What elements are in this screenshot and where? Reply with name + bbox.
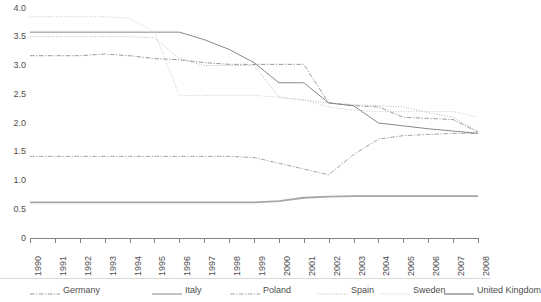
x-tick-label: 2003 — [358, 256, 367, 276]
legend-swatch-united-kingdom — [444, 285, 474, 295]
x-tick — [80, 238, 81, 243]
legend-label: Sweden — [413, 285, 446, 295]
legend-entry-italy[interactable]: Italy — [152, 281, 202, 299]
legend-entry-poland[interactable]: Poland — [230, 281, 291, 299]
x-tick-label: 2001 — [308, 256, 317, 276]
legend-label: United Kingdom — [477, 285, 541, 295]
x-tick — [453, 238, 454, 243]
legend-entry-united-kingdom[interactable]: United Kingdom — [444, 281, 541, 299]
x-tick — [30, 238, 31, 243]
legend-entry-sweden[interactable]: Sweden — [380, 281, 446, 299]
x-tick-label: 2007 — [457, 256, 466, 276]
x-tick — [478, 238, 479, 243]
x-tick-label: 1996 — [183, 256, 192, 276]
legend-label: Germany — [63, 285, 100, 295]
x-tick-label: 2004 — [382, 256, 391, 276]
chart-legend: GermanyItalyPolandSpainSwedenUnited King… — [0, 281, 491, 302]
legend-label: Poland — [263, 285, 291, 295]
x-tick — [229, 238, 230, 243]
legend-swatch-germany — [30, 285, 60, 295]
x-tick-label: 2000 — [283, 256, 292, 276]
x-tick — [403, 238, 404, 243]
x-tick — [329, 238, 330, 243]
x-tick-label: 1991 — [59, 256, 68, 276]
x-tick — [254, 238, 255, 243]
x-tick-label: 2008 — [482, 256, 491, 276]
legend-swatch-spain — [318, 285, 348, 295]
x-tick — [428, 238, 429, 243]
series-line-italy — [30, 32, 478, 133]
series-line-united-kingdom — [30, 196, 478, 202]
legend-entry-germany[interactable]: Germany — [30, 281, 100, 299]
legend-entry-spain[interactable]: Spain — [318, 281, 374, 299]
series-line-poland — [30, 133, 478, 174]
x-tick-label: 2002 — [333, 256, 342, 276]
x-tick-label: 1994 — [134, 256, 143, 276]
x-tick-label: 1995 — [158, 256, 167, 276]
x-tick — [105, 238, 106, 243]
x-tick-label: 2006 — [432, 256, 441, 276]
x-tick — [154, 238, 155, 243]
legend-swatch-poland — [230, 285, 260, 295]
x-tick — [55, 238, 56, 243]
x-tick — [179, 238, 180, 243]
legend-swatch-sweden — [380, 285, 410, 295]
x-tick — [130, 238, 131, 243]
x-tick — [378, 238, 379, 243]
x-tick-label: 1993 — [109, 256, 118, 276]
x-tick-label: 1999 — [258, 256, 267, 276]
x-tick — [279, 238, 280, 243]
x-tick — [354, 238, 355, 243]
x-tick — [204, 238, 205, 243]
legend-label: Spain — [351, 285, 374, 295]
legend-swatch-italy — [152, 285, 182, 295]
x-tick-label: 1992 — [84, 256, 93, 276]
series-line-germany — [30, 54, 478, 132]
x-tick-label: 2005 — [407, 256, 416, 276]
legend-divider — [0, 278, 491, 279]
x-tick-label: 1998 — [233, 256, 242, 276]
x-tick — [304, 238, 305, 243]
x-tick-label: 1990 — [34, 256, 43, 276]
legend-label: Italy — [185, 285, 202, 295]
x-tick-label: 1997 — [208, 256, 217, 276]
